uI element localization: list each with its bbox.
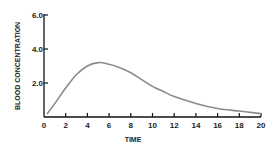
x-tick-label: 4 [85,121,90,130]
x-tick-label: 2 [63,121,68,130]
y-axis-ticks: 2.04.06.0 [32,11,48,88]
x-tick-label: 14 [191,121,200,130]
y-tick-label: 4.0 [32,45,44,54]
x-tick-label: 16 [213,121,222,130]
x-axis-title: TIME [125,136,142,143]
y-axis-title: BLOOD CONCENTRATION [14,22,21,110]
x-tick-label: 0 [42,121,47,130]
concentration-curve [47,63,261,114]
x-tick-label: 20 [257,121,266,130]
x-tick-label: 8 [129,121,134,130]
x-tick-label: 18 [235,121,244,130]
blood-concentration-chart: 2.04.06.0 02468101214161820 TIME BLOOD C… [0,0,280,152]
y-tick-label: 6.0 [32,11,44,20]
x-tick-label: 12 [170,121,179,130]
x-tick-label: 6 [107,121,112,130]
y-tick-label: 2.0 [32,79,44,88]
x-tick-label: 10 [148,121,157,130]
x-axis-ticks: 02468101214161820 [42,113,266,130]
